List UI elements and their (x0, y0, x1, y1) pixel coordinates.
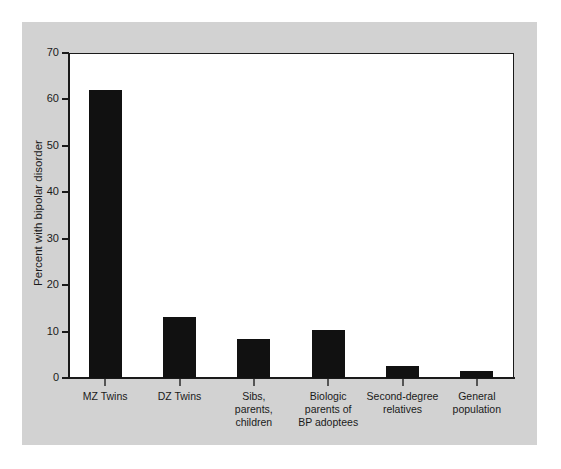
x-axis-line (68, 377, 515, 379)
x-tick-mark (253, 379, 255, 386)
x-tick-label: Sibs, parents, children (217, 390, 291, 429)
y-tick-mark (62, 145, 69, 147)
x-tick-mark (104, 379, 106, 386)
y-tick-label: 60 (1, 93, 59, 104)
y-tick-label: 40 (1, 186, 59, 197)
y-tick-label: 0 (1, 372, 59, 383)
y-tick-label: 10 (1, 326, 59, 337)
y-tick-label-wrap: 60 (0, 93, 59, 104)
y-tick-label-wrap: 30 (0, 233, 59, 244)
y-tick-label-wrap: 20 (0, 279, 59, 290)
y-tick-mark (62, 331, 69, 333)
y-tick-label: 70 (1, 47, 59, 58)
figure: Percent with bipolar disorder 0102030405… (0, 0, 561, 469)
x-tick-label: General population (440, 390, 514, 416)
x-tick-label: DZ Twins (142, 390, 216, 403)
x-tick-label: Biologic parents of BP adoptees (291, 390, 365, 429)
x-tick-mark (476, 379, 478, 386)
y-tick-label-wrap: 40 (0, 186, 59, 197)
plot-area (68, 53, 514, 378)
y-tick-label: 50 (1, 140, 59, 151)
y-tick-label-wrap: 10 (0, 326, 59, 337)
y-tick-label: 30 (1, 233, 59, 244)
y-tick-mark (62, 98, 69, 100)
bar (237, 339, 270, 378)
x-tick-mark (402, 379, 404, 386)
x-tick-mark (327, 379, 329, 386)
x-tick-label: MZ Twins (68, 390, 142, 403)
y-tick-mark (62, 284, 69, 286)
y-tick-label-wrap: 70 (0, 47, 59, 58)
bar (89, 90, 122, 378)
x-tick-label: Second-degree relatives (365, 390, 439, 416)
x-tick-mark (179, 379, 181, 386)
bar (386, 366, 419, 378)
bar (312, 330, 345, 378)
bar (460, 371, 493, 378)
y-tick-label: 20 (1, 279, 59, 290)
y-tick-mark (62, 377, 69, 379)
bar (163, 317, 196, 378)
y-tick-mark (62, 238, 69, 240)
y-tick-label-wrap: 50 (0, 140, 59, 151)
y-tick-mark (62, 191, 69, 193)
y-tick-label-wrap: 0 (0, 372, 59, 383)
y-tick-mark (62, 52, 69, 54)
